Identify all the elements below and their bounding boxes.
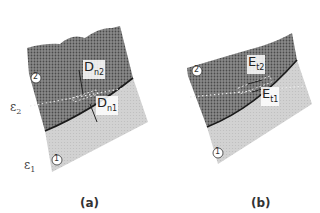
caption-b: (b) — [251, 196, 271, 210]
region-2-label-b: 2 — [194, 65, 199, 74]
et2-label: Et2 — [247, 55, 265, 74]
panel-a — [27, 26, 148, 172]
epsilon-1-label: ε1 — [24, 158, 35, 174]
epsilon-2-label: ε2 — [10, 100, 21, 116]
dn2-label: Dn2 — [83, 60, 105, 79]
panel-b — [187, 33, 312, 164]
et1-label: Et1 — [261, 87, 279, 106]
region-1-label-a: 1 — [54, 154, 59, 163]
diagram-canvas — [0, 0, 320, 213]
region-1-label-b: 1 — [215, 147, 220, 156]
caption-a: (a) — [80, 196, 99, 210]
dn1-label: Dn1 — [96, 96, 118, 115]
region-2-label-a: 2 — [33, 72, 38, 81]
